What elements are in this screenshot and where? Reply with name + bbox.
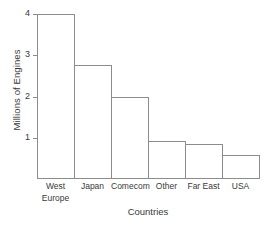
x-axis-tick-label: Far East [185, 181, 222, 193]
x-axis-tick-labels: West EuropeJapanComecomOtherFar EastUSA [37, 181, 259, 207]
x-axis-tick-label: Other [148, 181, 185, 193]
y-axis-title: Millions of Engines [10, 5, 24, 175]
y-axis-tick-label: 1 [25, 131, 30, 144]
bar [185, 144, 223, 179]
bar [74, 65, 112, 179]
x-axis-title: Countries [37, 205, 259, 218]
bar [37, 14, 75, 179]
x-axis-tick-label: Japan [74, 181, 111, 193]
x-axis-tick-label: Comecom [111, 181, 148, 193]
bar [148, 141, 186, 179]
bar [111, 97, 149, 179]
y-axis-tick-label: 4 [25, 7, 30, 20]
bar-chart: Millions of Engines 1234 West EuropeJapa… [0, 0, 280, 229]
bar-series [37, 14, 259, 179]
y-axis-tick-label: 2 [25, 90, 30, 103]
x-axis-tick-label: West Europe [37, 181, 74, 204]
y-axis-tick-label: 3 [25, 48, 30, 61]
plot-area: 1234 [37, 14, 259, 179]
x-axis-tick-label: USA [222, 181, 259, 193]
bar [222, 155, 260, 179]
